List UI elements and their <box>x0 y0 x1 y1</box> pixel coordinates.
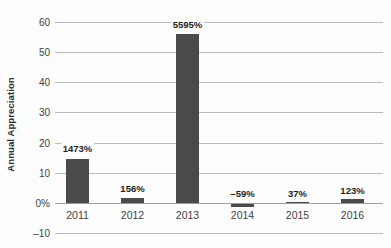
x-axis-label-2012: 2012 <box>103 209 163 221</box>
gridline-30 <box>55 112 383 113</box>
gridline-50 <box>55 52 383 53</box>
y-tick-label-minus-10: –10 <box>4 228 50 239</box>
bar-2015[interactable] <box>286 202 309 204</box>
x-axis-label-2016: 2016 <box>323 209 383 221</box>
gridline-minus-10 <box>55 233 383 234</box>
bar-2012[interactable] <box>121 198 144 203</box>
bar-2016[interactable] <box>341 199 364 203</box>
y-tick-label-10: 10 <box>4 167 50 178</box>
gridline-60 <box>55 22 383 23</box>
gridline-40 <box>55 82 383 83</box>
bar-2014[interactable] <box>231 204 254 206</box>
gridline-zero <box>55 203 383 205</box>
x-axis-label-2011: 2011 <box>48 209 108 221</box>
data-label-2014: –59% <box>213 188 273 199</box>
y-tick-label-40: 40 <box>4 77 50 88</box>
y-axis-title: Annual Appreciation <box>0 0 20 248</box>
bar-chart: Annual Appreciation 60 50 40 30 20 10 0%… <box>0 0 391 248</box>
x-axis-label-2014: 2014 <box>213 209 273 221</box>
y-tick-label-20: 20 <box>4 137 50 148</box>
y-tick-label-50: 50 <box>4 47 50 58</box>
bar-2013[interactable] <box>176 34 199 203</box>
data-label-2011: 1473% <box>48 143 108 154</box>
data-label-2013: 5595% <box>158 19 218 30</box>
y-tick-label-0: 0% <box>4 197 50 208</box>
x-axis-label-2015: 2015 <box>268 209 328 221</box>
gridline-10 <box>55 173 383 174</box>
y-axis-title-text: Annual Appreciation <box>5 77 16 171</box>
data-label-2015: 37% <box>268 188 328 199</box>
data-label-2012: 156% <box>103 183 163 194</box>
bar-2011[interactable] <box>66 159 89 203</box>
data-label-2016: 123% <box>323 185 383 196</box>
y-tick-label-60: 60 <box>4 17 50 28</box>
y-tick-label-30: 30 <box>4 107 50 118</box>
x-axis-label-2013: 2013 <box>158 209 218 221</box>
